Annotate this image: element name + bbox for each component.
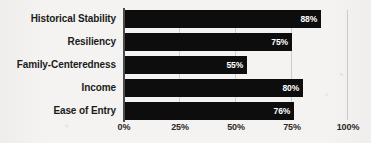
x-tick-100: 100% (337, 122, 360, 132)
bar-value-label: 88% (300, 10, 317, 28)
bar-family-centeredness: 55% (124, 56, 247, 74)
category-label-income: Income (0, 79, 120, 97)
bar-value-label: 75% (271, 33, 288, 51)
bar-value-label: 76% (274, 102, 291, 120)
bar-row: 88% (124, 10, 348, 28)
x-tick-50: 50% (227, 122, 245, 132)
bar-income: 80% (124, 79, 303, 97)
category-label-family-centeredness: Family-Centeredness (0, 56, 120, 74)
bar-resiliency: 75% (124, 33, 292, 51)
plot-area: 88% 75% 55% 80% 76% (124, 10, 348, 120)
bar-value-label: 80% (282, 79, 299, 97)
bar-historical-stability: 88% (124, 10, 321, 28)
bar-row: 75% (124, 33, 348, 51)
y-axis-line (123, 8, 125, 122)
category-label-historical-stability: Historical Stability (0, 10, 120, 28)
category-label-ease-of-entry: Ease of Entry (0, 102, 120, 120)
x-axis-labels: 0% 25% 50% 75% 100% (124, 122, 348, 143)
x-tick-0: 0% (118, 122, 131, 132)
bar-row: 76% (124, 102, 348, 120)
category-axis-labels: Historical Stability Resiliency Family-C… (0, 10, 120, 120)
x-tick-25: 25% (171, 122, 189, 132)
bar-value-label: 55% (226, 56, 243, 74)
bar-row: 55% (124, 56, 348, 74)
x-tick-75: 75% (283, 122, 301, 132)
bar-ease-of-entry: 76% (124, 102, 294, 120)
bar-chart: Historical Stability Resiliency Family-C… (0, 0, 371, 143)
category-label-resiliency: Resiliency (0, 33, 120, 51)
bar-row: 80% (124, 79, 348, 97)
